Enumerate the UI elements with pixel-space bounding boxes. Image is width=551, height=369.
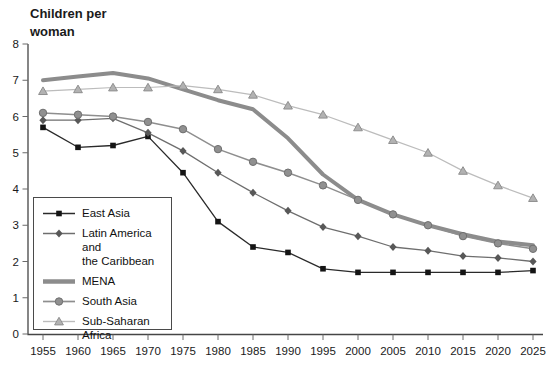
chart-legend: East AsiaLatin America and the Caribbean…: [33, 197, 172, 330]
legend-item-sub-saharan-africa: Sub-Saharan Africa: [41, 314, 171, 342]
square-marker: [215, 219, 221, 225]
circle-marker: [319, 182, 326, 189]
legend-label: Latin America and the Caribbean: [82, 226, 171, 268]
legend-item-east-asia: East Asia: [41, 206, 171, 220]
fertility-chart-figure: Children per woman 012345678195519601965…: [0, 0, 551, 369]
triangle-marker: [424, 149, 433, 157]
square-marker: [250, 244, 256, 250]
y-tick-label: 7: [13, 74, 19, 86]
triangle-marker: [494, 181, 503, 189]
square-marker: [355, 270, 361, 276]
x-tick-label: 1980: [205, 345, 231, 357]
circle-marker: [459, 232, 466, 239]
square-marker: [180, 170, 186, 176]
square-marker: [495, 270, 501, 276]
x-tick-label: 2005: [380, 345, 406, 357]
legend-label: MENA: [82, 274, 115, 288]
circle-marker: [144, 118, 151, 125]
x-tick-label: 1960: [65, 345, 91, 357]
square-marker: [110, 143, 116, 149]
legend-label: Sub-Saharan Africa: [82, 314, 150, 342]
diamond-marker: [424, 247, 431, 255]
square-marker: [285, 250, 291, 256]
triangle-marker: [529, 194, 538, 202]
circle-marker: [354, 196, 361, 203]
square-marker: [320, 266, 326, 272]
legend-swatch-none-line: [41, 275, 77, 288]
x-tick-label: 2020: [485, 345, 511, 357]
diamond-marker: [179, 147, 186, 155]
legend-swatch-circle-icon: [41, 295, 77, 308]
circle-marker: [214, 145, 221, 152]
y-tick-label: 4: [13, 183, 20, 195]
circle-marker: [284, 169, 291, 176]
triangle-marker: [459, 167, 468, 175]
circle-marker: [74, 111, 81, 118]
y-tick-label: 2: [13, 256, 19, 268]
x-tick-label: 2025: [520, 345, 546, 357]
diamond-marker: [354, 232, 361, 240]
circle-marker: [389, 211, 396, 218]
x-tick-label: 2000: [345, 345, 371, 357]
legend-swatch-square-icon: [41, 207, 77, 220]
x-tick-label: 1970: [135, 345, 161, 357]
x-tick-label: 1955: [30, 345, 56, 357]
legend-item-latin-america-and-the-caribbean: Latin America and the Caribbean: [41, 226, 171, 268]
diamond-marker: [389, 243, 396, 251]
circle-marker: [55, 297, 62, 304]
x-tick-label: 2010: [415, 345, 441, 357]
diamond-marker: [529, 258, 536, 266]
y-tick-label: 1: [13, 292, 19, 304]
triangle-marker: [354, 123, 363, 131]
x-tick-label: 1995: [310, 345, 336, 357]
legend-swatch-triangle-icon: [41, 315, 77, 328]
circle-marker: [39, 109, 46, 116]
square-marker: [530, 268, 536, 274]
y-tick-label: 6: [13, 111, 19, 123]
diamond-marker: [249, 189, 256, 197]
square-marker: [460, 270, 466, 276]
diamond-marker: [494, 254, 501, 262]
legend-swatch-diamond-icon: [41, 227, 77, 240]
circle-marker: [424, 222, 431, 229]
x-tick-label: 1965: [100, 345, 126, 357]
circle-marker: [179, 125, 186, 132]
diamond-marker: [459, 252, 466, 260]
diamond-marker: [39, 116, 46, 124]
square-marker: [75, 145, 81, 151]
x-tick-label: 1975: [170, 345, 196, 357]
legend-label: South Asia: [82, 294, 137, 308]
diamond-marker: [55, 229, 62, 237]
y-tick-label: 5: [13, 147, 19, 159]
y-tick-label: 0: [13, 328, 19, 340]
diamond-marker: [319, 223, 326, 231]
x-tick-label: 2015: [450, 345, 476, 357]
diamond-marker: [214, 169, 221, 177]
legend-item-mena: MENA: [41, 274, 171, 288]
circle-marker: [494, 240, 501, 247]
y-tick-label: 3: [13, 219, 19, 231]
diamond-marker: [284, 207, 291, 215]
triangle-marker: [389, 136, 398, 144]
circle-marker: [109, 113, 116, 120]
x-tick-label: 1985: [240, 345, 266, 357]
square-marker: [425, 270, 431, 276]
legend-label: East Asia: [82, 206, 130, 220]
circle-marker: [529, 245, 536, 252]
square-marker: [56, 210, 62, 216]
y-tick-label: 8: [13, 38, 19, 50]
square-marker: [40, 125, 46, 131]
square-marker: [390, 270, 396, 276]
x-tick-label: 1990: [275, 345, 301, 357]
circle-marker: [249, 158, 256, 165]
legend-item-south-asia: South Asia: [41, 294, 171, 308]
